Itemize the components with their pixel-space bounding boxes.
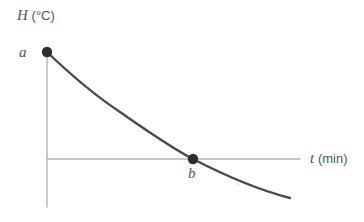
data-point-a [42, 47, 52, 57]
figure-container: H (°C) t (min) a b [0, 0, 364, 222]
data-point-b [188, 154, 198, 164]
y-axis-unit: (°C) [32, 8, 55, 23]
x-axis-label: t (min) [310, 151, 348, 166]
point-label-a: a [19, 45, 27, 60]
scan-speck-artifact [237, 183, 239, 185]
point-label-b: b [188, 166, 196, 181]
y-axis-label: H (°C) [17, 8, 55, 23]
chart-plot-area [0, 0, 364, 222]
y-axis-variable: H [17, 7, 28, 23]
x-axis-unit: (min) [318, 151, 348, 166]
decay-curve [47, 52, 290, 198]
